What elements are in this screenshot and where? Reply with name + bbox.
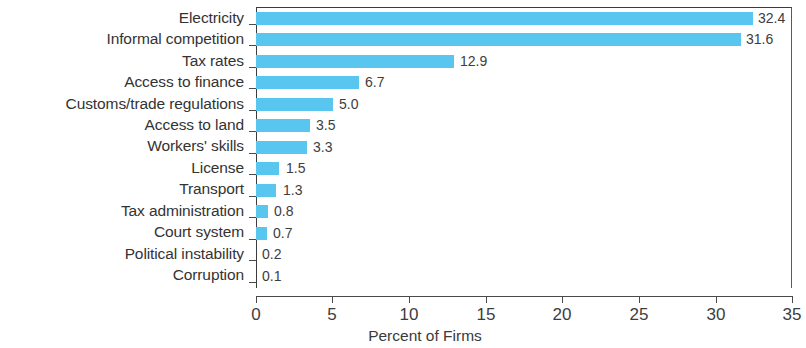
bar-value-label: 0.1 <box>262 270 281 283</box>
x-axis-tick-label: 5 <box>327 305 336 325</box>
bar <box>256 76 359 89</box>
y-axis-tick <box>249 260 256 261</box>
x-axis-tick-label: 15 <box>477 305 496 325</box>
y-axis-tick <box>249 153 256 154</box>
bar-value-label: 0.7 <box>273 227 292 240</box>
category-label: Workers' skills <box>147 138 244 154</box>
x-axis-tick <box>716 296 717 303</box>
bar-value-label: 1.5 <box>286 162 305 175</box>
y-axis-tick <box>249 217 256 218</box>
x-axis-tick <box>486 296 487 303</box>
category-label: Transport <box>179 181 244 197</box>
bar-value-label: 1.3 <box>283 184 302 197</box>
category-label: Tax rates <box>182 53 244 69</box>
y-axis-tick <box>249 110 256 111</box>
y-axis-tick <box>249 45 256 46</box>
bar <box>256 33 741 46</box>
bar <box>256 141 307 154</box>
y-axis-tick <box>249 174 256 175</box>
x-axis-tick <box>639 296 640 303</box>
y-axis-tick <box>249 196 256 197</box>
x-axis-tick <box>409 296 410 303</box>
category-axis-labels: Electricity Informal competition Tax rat… <box>0 7 250 288</box>
bar <box>256 98 333 111</box>
bar-value-label: 6.7 <box>365 76 384 89</box>
x-axis-tick-label: 35 <box>783 305 802 325</box>
bar-value-label: 5.0 <box>339 98 358 111</box>
x-axis-title: Percent of Firms <box>0 327 806 345</box>
category-label: Electricity <box>179 10 244 26</box>
bar <box>256 227 267 240</box>
bar-value-label: 12.9 <box>460 55 487 68</box>
category-label: Access to land <box>145 117 244 133</box>
category-label: Informal competition <box>106 31 244 47</box>
category-label: Customs/trade regulations <box>66 96 244 112</box>
bar <box>256 119 310 132</box>
x-axis-title-text: Percent of Firms <box>368 327 482 344</box>
y-axis-tick <box>249 239 256 240</box>
y-axis-tick <box>249 131 256 132</box>
bar <box>256 55 454 68</box>
plot-area: 32.4 31.6 12.9 6.7 5.0 3.5 3.3 1.5 1.3 0… <box>256 7 792 288</box>
x-axis-tick <box>332 296 333 303</box>
category-label: Access to finance <box>124 74 244 90</box>
bar <box>256 12 753 25</box>
category-label: Court system <box>154 224 244 240</box>
x-axis-tick-label: 30 <box>707 305 726 325</box>
bar-value-label: 31.6 <box>746 33 773 46</box>
y-axis-tick <box>249 88 256 89</box>
x-axis-tick-label: 0 <box>251 305 260 325</box>
bar-chart: Electricity Informal competition Tax rat… <box>0 0 806 348</box>
bar <box>256 184 276 197</box>
x-axis-tick-label: 25 <box>630 305 649 325</box>
bar <box>256 205 268 218</box>
bar-value-label: 3.5 <box>316 119 335 132</box>
bar-value-label: 0.8 <box>274 205 293 218</box>
category-label: Corruption <box>173 267 244 283</box>
x-axis-tick <box>562 296 563 303</box>
category-label: License <box>191 160 244 176</box>
category-label: Political instability <box>125 246 244 262</box>
bar <box>256 162 279 175</box>
bar-value-label: 3.3 <box>313 141 332 154</box>
y-axis-tick <box>249 67 256 68</box>
bar-value-label: 32.4 <box>758 12 785 25</box>
x-axis-tick <box>792 296 793 303</box>
category-label: Tax administration <box>121 203 244 219</box>
y-axis-tick <box>249 24 256 25</box>
x-axis-tick-label: 10 <box>400 305 419 325</box>
x-axis-line <box>256 296 793 297</box>
y-axis-tick <box>249 282 256 283</box>
x-axis-tick <box>256 296 257 303</box>
x-axis-tick-label: 20 <box>553 305 572 325</box>
bar-value-label: 0.2 <box>262 248 281 261</box>
